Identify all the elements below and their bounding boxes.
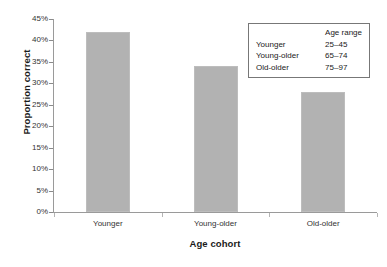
legend-header-row: Age range: [256, 27, 362, 39]
y-axis-tick-label: 10%: [22, 165, 48, 173]
x-axis-tick-label: Younger: [58, 219, 158, 229]
y-axis-tick-labels: 0%5%10%15%20%25%30%35%40%45%: [22, 0, 48, 267]
x-axis-tick-mark: [54, 213, 55, 217]
y-axis-tick-label: 45%: [22, 15, 48, 23]
x-axis-title: Age cohort: [53, 238, 377, 249]
bar: [301, 92, 345, 212]
x-axis-line: [53, 212, 377, 213]
x-axis-tick-mark: [269, 213, 270, 217]
x-axis-tick-label: Old-older: [273, 219, 373, 229]
legend-cohort-name: Old-older: [256, 62, 309, 74]
caption-remnant: [6, 258, 381, 265]
bar: [194, 66, 238, 212]
legend-age-range: 25–45: [309, 39, 362, 51]
legend-header-blank: [256, 27, 309, 39]
legend-table: Age range Younger25–45Young-older65–74Ol…: [256, 27, 362, 73]
legend-box: Age range Younger25–45Young-older65–74Ol…: [248, 23, 370, 78]
y-axis-tick-label: 0%: [22, 208, 48, 216]
y-axis-tick-label: 40%: [22, 36, 48, 44]
legend-age-range: 65–74: [309, 50, 362, 62]
legend-row: Old-older75–97: [256, 62, 362, 74]
y-axis-tick-label: 35%: [22, 58, 48, 66]
x-axis-tick-label: Young-older: [166, 219, 266, 229]
y-axis-tick-label: 25%: [22, 101, 48, 109]
y-axis-tick-label: 30%: [22, 79, 48, 87]
y-axis-tick-label: 15%: [22, 144, 48, 152]
x-axis-tick-mark: [377, 213, 378, 217]
legend-cohort-name: Young-older: [256, 50, 309, 62]
legend-body: Younger25–45Young-older65–74Old-older75–…: [256, 39, 362, 74]
legend-cohort-name: Younger: [256, 39, 309, 51]
x-axis-tick-mark: [162, 213, 163, 217]
y-axis-tick-label: 5%: [22, 187, 48, 195]
figure-container: Proportion correct 0%5%10%15%20%25%30%35…: [0, 0, 387, 267]
y-axis-tick-label: 20%: [22, 122, 48, 130]
legend-row: Younger25–45: [256, 39, 362, 51]
legend-row: Young-older65–74: [256, 50, 362, 62]
bar: [86, 32, 130, 212]
legend-header-age-range: Age range: [309, 27, 362, 39]
legend-age-range: 75–97: [309, 62, 362, 74]
